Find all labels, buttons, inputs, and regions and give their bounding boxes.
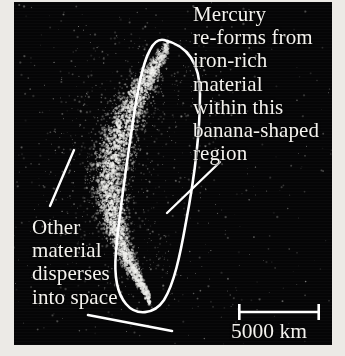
annotation-line: material [193, 73, 319, 96]
figure-root: Mercury re-forms from iron-rich material… [0, 0, 345, 356]
annotation-line: iron-rich [193, 49, 319, 72]
paper-margin-bottom [0, 345, 345, 356]
annotation-line: Mercury [193, 3, 319, 26]
paper-margin-right [332, 0, 345, 356]
mercury-reforms-annotation: Mercury re-forms from iron-rich material… [193, 3, 319, 165]
annotation-line: banana-shaped [193, 119, 319, 142]
annotation-line: Other [32, 216, 118, 239]
other-material-annotation: Other material disperses into space [32, 216, 118, 309]
paper-margin-left [0, 0, 14, 356]
annotation-line: within this [193, 96, 319, 119]
annotation-line: into space [32, 286, 118, 309]
annotation-line: re-forms from [193, 26, 319, 49]
annotation-line: material [32, 239, 118, 262]
scale-bar-label: 5000 km [231, 320, 307, 343]
annotation-line: region [193, 142, 319, 165]
simulation-panel: Mercury re-forms from iron-rich material… [14, 2, 332, 345]
annotation-line: disperses [32, 262, 118, 285]
